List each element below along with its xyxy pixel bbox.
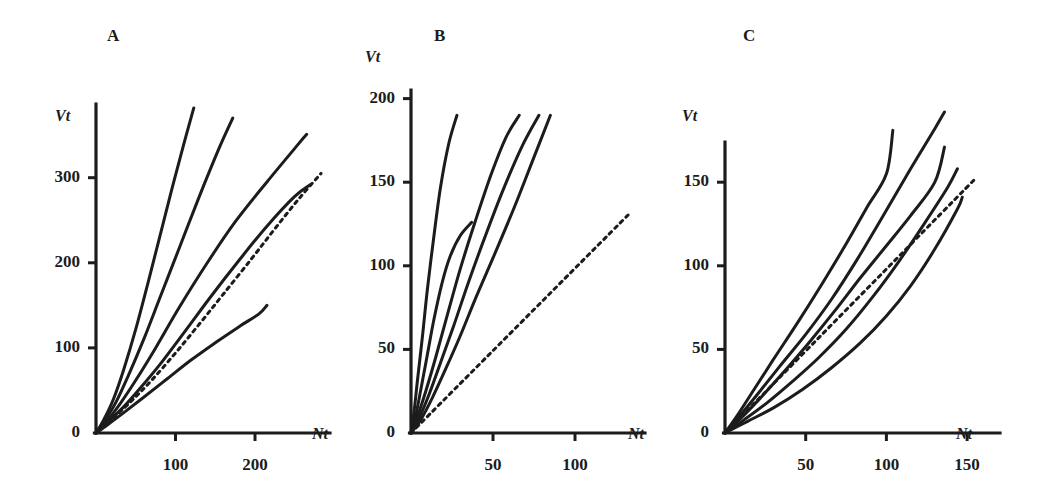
a-y-tick-label-300: 300 xyxy=(16,167,80,187)
b-x-tick-label-100: 100 xyxy=(543,455,607,475)
panel-c-plot xyxy=(680,0,1053,493)
panel-b-y-axis-label: Vt xyxy=(365,48,380,66)
panel-a-plot xyxy=(0,0,350,493)
c-curve-3 xyxy=(725,147,945,433)
b-y-tick-label-100: 100 xyxy=(331,255,395,275)
c-y-tick-label-150: 150 xyxy=(645,171,709,191)
b-y-tick-label-50: 50 xyxy=(331,338,395,358)
a-curve-2 xyxy=(96,118,233,433)
panel-a: A Vt Nt 0100200300100200 xyxy=(0,0,350,493)
c-curve-1 xyxy=(725,130,893,433)
a-curve-4 xyxy=(96,185,311,433)
a-y-tick-label-100: 100 xyxy=(16,337,80,357)
a-curve-3 xyxy=(96,134,307,433)
panel-b-x-axis-label: Nt xyxy=(628,425,644,443)
a-y-tick-label-0: 0 xyxy=(16,422,80,442)
a-x-tick-label-200: 200 xyxy=(223,455,287,475)
b-x-tick-label-50: 50 xyxy=(461,455,525,475)
c-x-tick-label-50: 50 xyxy=(774,455,838,475)
panel-c-letter: C xyxy=(743,26,756,46)
c-curve-4-dashed xyxy=(725,179,975,433)
b-curve-3 xyxy=(411,115,519,433)
panel-c: C Vt Nt 05010015050100150 xyxy=(680,0,1053,493)
b-y-tick-label-0: 0 xyxy=(331,422,395,442)
c-y-tick-label-50: 50 xyxy=(645,338,709,358)
panel-b: B Vt Nt 05010015020050100 xyxy=(350,0,680,493)
c-x-tick-label-150: 150 xyxy=(935,455,999,475)
c-y-tick-label-0: 0 xyxy=(645,422,709,442)
panel-a-x-axis-label: Nt xyxy=(312,425,328,443)
figure-root: A Vt Nt 0100200300100200 B Vt Nt 0501001… xyxy=(0,0,1053,493)
a-curve-5-dashed xyxy=(96,173,321,433)
panel-c-y-axis-label: Vt xyxy=(682,107,697,125)
panel-a-letter: A xyxy=(107,26,120,46)
b-y-tick-label-200: 200 xyxy=(331,88,395,108)
a-curve-6 xyxy=(96,305,267,433)
panel-b-letter: B xyxy=(434,26,446,46)
panel-c-x-axis-label: Nt xyxy=(956,425,972,443)
b-y-tick-label-150: 150 xyxy=(331,171,395,191)
panel-a-y-axis-label: Vt xyxy=(55,107,70,125)
a-x-tick-label-100: 100 xyxy=(144,455,208,475)
a-y-tick-label-200: 200 xyxy=(16,252,80,272)
c-y-tick-label-100: 100 xyxy=(645,255,709,275)
c-x-tick-label-100: 100 xyxy=(854,455,918,475)
panel-b-plot xyxy=(350,0,680,493)
